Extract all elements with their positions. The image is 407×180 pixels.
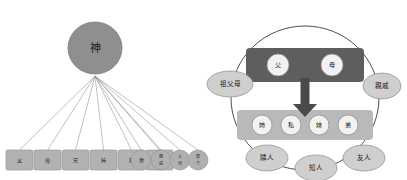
relation-circle-label-0: 妻	[139, 157, 144, 164]
relation-box-2[interactable]: 兄	[62, 150, 89, 170]
pill-neighbor-label: 隣人	[260, 153, 274, 162]
deity-node-label: 神	[90, 41, 101, 55]
left-diagram: 父母兄姉私妹 妻親戚上司部下 神	[0, 0, 204, 180]
left-diagram-svg: 父母兄姉私妹 妻親戚上司部下 神	[0, 0, 204, 180]
sibling-chip-label-0: 姉	[259, 121, 265, 129]
ray-line-0	[20, 76, 96, 150]
relation-box-label-0: 父	[17, 157, 22, 163]
deity-node[interactable]: 神	[68, 22, 122, 74]
pill-relatives-label: 親戚	[375, 81, 389, 90]
parents-band	[246, 48, 364, 82]
parent-chip-label-0: 父	[275, 61, 281, 68]
pill-grandparents-label: 祖父母	[220, 79, 241, 88]
relation-box-1[interactable]: 母	[34, 150, 61, 170]
pill-friend-label: 友人	[357, 153, 371, 162]
pill-acquaintance[interactable]: 知人	[295, 155, 337, 180]
relation-box-label-2: 兄	[73, 157, 78, 164]
sibling-chip-label-2: 妹	[316, 121, 322, 129]
sibling-chip-label-1: 私	[288, 121, 294, 129]
ray-group	[20, 76, 199, 150]
relation-circle-0[interactable]: 妻	[131, 150, 151, 170]
relation-box-0[interactable]: 父	[6, 150, 33, 170]
parent-chip-0[interactable]: 父	[267, 54, 289, 76]
relation-box-label-1: 母	[45, 157, 50, 164]
sibling-chip-3[interactable]: 弟	[338, 115, 358, 135]
parent-chip-1[interactable]: 母	[321, 54, 343, 76]
ray-line-9	[95, 76, 198, 150]
figure-canvas: 父母兄姉私妹 妻親戚上司部下 神 父母姉私妹弟 祖父母親戚隣人知人友人	[0, 0, 407, 180]
ray-line-2	[76, 76, 96, 150]
ray-line-4	[95, 76, 132, 150]
sibling-chip-1[interactable]: 私	[281, 115, 301, 135]
pill-relatives[interactable]: 親戚	[363, 73, 401, 99]
ray-line-3	[95, 76, 104, 150]
ray-line-8	[95, 76, 180, 150]
pill-friend[interactable]: 友人	[343, 145, 385, 171]
relation-circle-2[interactable]: 上司	[170, 150, 190, 170]
sibling-chip-2[interactable]: 妹	[309, 115, 329, 135]
relation-box-3[interactable]: 姉	[90, 150, 117, 170]
relation-circle-1[interactable]: 親戚	[151, 150, 171, 170]
pill-grandparents[interactable]: 祖父母	[207, 71, 253, 97]
ray-line-7	[95, 76, 161, 150]
sibling-chip-0[interactable]: 姉	[252, 115, 272, 135]
right-diagram: 父母姉私妹弟 祖父母親戚隣人知人友人	[204, 0, 407, 180]
relation-box-label-3: 姉	[101, 157, 106, 164]
right-diagram-svg: 父母姉私妹弟 祖父母親戚隣人知人友人	[204, 0, 407, 180]
sibling-chip-label-3: 弟	[345, 121, 351, 129]
ray-line-6	[95, 76, 141, 150]
pill-acquaintance-label: 知人	[309, 163, 323, 172]
ray-line-1	[48, 76, 96, 150]
pill-neighbor[interactable]: 隣人	[246, 145, 288, 171]
deity-node-group: 神	[68, 22, 122, 74]
parent-chip-label-1: 母	[329, 61, 335, 69]
